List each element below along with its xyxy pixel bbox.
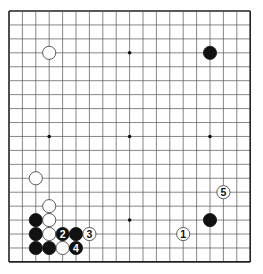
white-stone [43,227,56,240]
black-stone [29,227,42,240]
move-number-label: 4 [73,242,79,254]
star-point [128,135,132,139]
stone-circle [29,172,42,185]
go-board: 23451 [0,0,263,274]
white-stone [43,200,56,213]
move-number-label: 2 [60,228,66,240]
move-number-label: 3 [86,228,92,240]
stone-circle [56,241,69,254]
white-stone [43,214,56,227]
stone-circle [43,46,56,59]
stone-circle [203,214,216,227]
black-stone [29,241,42,254]
stone-circle [203,46,216,59]
black-stone [43,241,56,254]
star-point [128,51,132,55]
white-stone [29,172,42,185]
white-stone [56,241,69,254]
black-stone [203,46,216,59]
stone-circle [43,227,56,240]
white-stone: 1 [177,227,190,240]
stone-circle [29,227,42,240]
star-point [208,135,212,139]
stone-circle [43,214,56,227]
stone-circle [29,241,42,254]
stone-circle [69,227,82,240]
star-point [128,218,132,222]
white-stone [43,46,56,59]
stone-circle [29,214,42,227]
move-number-label: 1 [180,228,186,240]
black-stone [69,227,82,240]
stone-circle [43,200,56,213]
move-number-label: 5 [220,186,226,198]
black-stone: 4 [69,241,82,254]
white-stone: 5 [217,186,230,199]
black-stone [29,214,42,227]
stone-circle [43,241,56,254]
black-stone [203,214,216,227]
white-stone: 3 [83,227,96,240]
star-point [47,135,51,139]
black-stone: 2 [56,227,69,240]
